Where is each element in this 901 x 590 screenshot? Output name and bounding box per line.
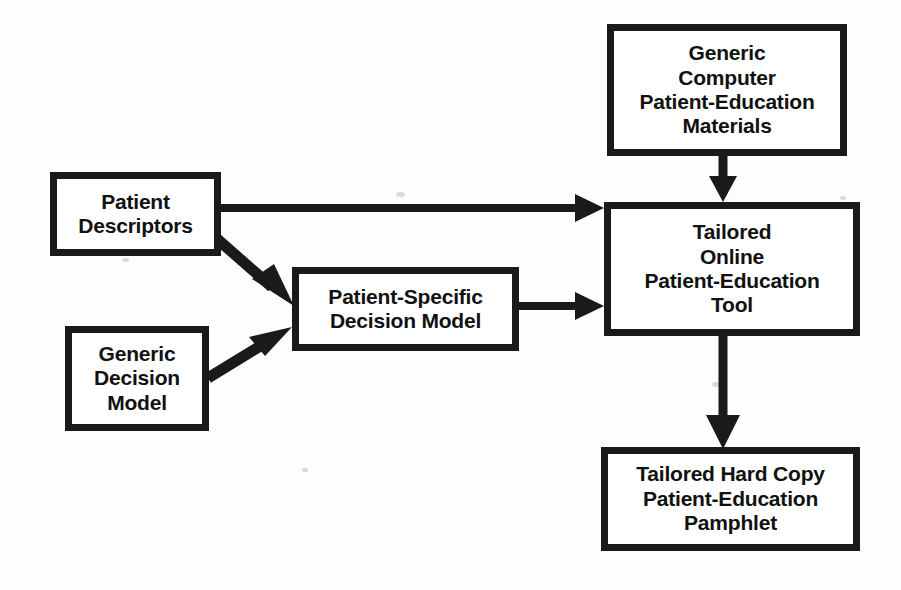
node-patient-descriptors[interactable]: Patient Descriptors [50, 172, 221, 256]
edge-descriptors-to-specific [216, 238, 294, 306]
node-tailored-online-patient-education-tool[interactable]: Tailored Online Patient-Education Tool [604, 202, 860, 336]
node-generic-computer-patient-education-materials[interactable]: Generic Computer Patient-Education Mater… [607, 24, 847, 156]
edge-online-to-hardcopy [706, 336, 740, 449]
edge-generic-decision-to-specific [208, 327, 292, 378]
node-label: Tailored Hard Copy Patient-Education Pam… [632, 462, 829, 535]
edge-materials-to-online [709, 156, 737, 202]
node-tailored-hard-copy-patient-education-pamphlet[interactable]: Tailored Hard Copy Patient-Education Pam… [601, 447, 860, 551]
node-label: Tailored Online Patient-Education Tool [640, 220, 823, 317]
node-patient-specific-decision-model[interactable]: Patient-Specific Decision Model [292, 267, 519, 351]
edge-descriptors-to-online [218, 194, 604, 222]
node-label: Generic Decision Model [90, 342, 184, 415]
edge-specific-to-online [517, 292, 604, 320]
node-label: Generic Computer Patient-Education Mater… [635, 41, 818, 138]
node-label: Patient-Specific Decision Model [324, 285, 486, 334]
node-label: Patient Descriptors [74, 190, 197, 239]
node-generic-decision-model[interactable]: Generic Decision Model [65, 326, 209, 431]
diagram-canvas: Generic Computer Patient-Education Mater… [0, 0, 901, 590]
